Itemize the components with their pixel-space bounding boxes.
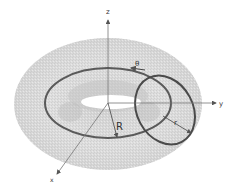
x-axis-label: x [50,176,54,183]
theta-label: θ [135,60,139,68]
minor-radius-label: r [174,119,177,127]
y-axis-label: y [219,100,223,108]
major-radius-label: R [116,121,123,132]
torus-diagram: z θ y x R r [0,0,228,188]
z-axis-label: z [106,8,110,16]
torus-hole [81,95,141,109]
